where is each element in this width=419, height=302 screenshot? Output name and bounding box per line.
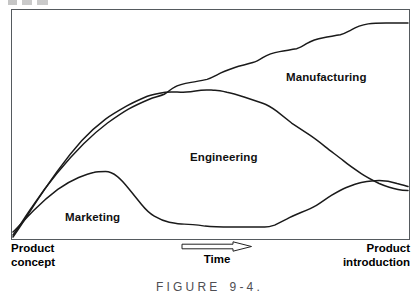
chart-frame: Manufacturing Engineering Marketing xyxy=(11,9,410,240)
axis-label-product-introduction: Product introduction xyxy=(343,242,410,269)
axis-label-product-concept-line2: concept xyxy=(11,256,55,270)
figure-caption-number: 9-4. xyxy=(230,280,263,294)
axis-label-time: Time xyxy=(175,253,259,265)
time-axis-group: Time xyxy=(175,241,259,265)
axis-label-product-concept: Product concept xyxy=(11,242,55,269)
axis-label-product-concept-line1: Product xyxy=(11,242,55,256)
axis-label-product-introduction-line1: Product xyxy=(343,242,410,256)
region-label-manufacturing: Manufacturing xyxy=(286,71,367,83)
right-arrow-outline-icon xyxy=(181,241,253,252)
manufacturing-curve xyxy=(13,23,408,235)
scan-artifact-top-text xyxy=(8,0,68,5)
figure-caption-prefix: FIGURE xyxy=(156,280,221,294)
effort-curves-plot xyxy=(12,10,409,239)
figure-caption: FIGURE9-4. xyxy=(0,280,419,294)
axis-label-product-introduction-line2: introduction xyxy=(343,256,410,270)
region-label-marketing: Marketing xyxy=(65,211,120,223)
region-label-engineering: Engineering xyxy=(190,151,258,163)
